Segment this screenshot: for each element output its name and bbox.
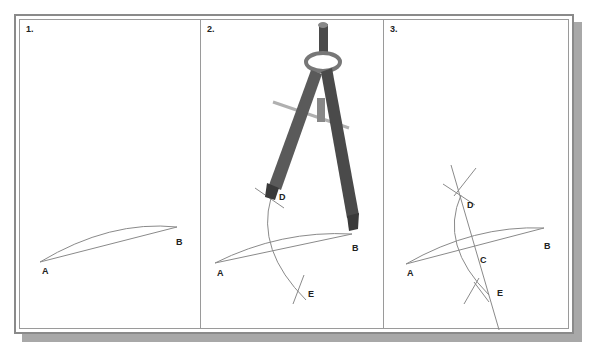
label-d: D bbox=[279, 192, 286, 202]
label-a: A bbox=[217, 268, 224, 278]
label-b: B bbox=[176, 237, 183, 247]
label-e: E bbox=[497, 288, 503, 298]
label-c: C bbox=[480, 255, 487, 265]
label-b: B bbox=[544, 241, 551, 251]
label-a: A bbox=[42, 266, 49, 276]
label-d: D bbox=[467, 200, 474, 210]
panel-step-3: 3. D C B A E bbox=[384, 20, 574, 328]
panel-step-1: 1. A B bbox=[20, 20, 200, 328]
diagram-inner-border: 1. A B 2. bbox=[19, 19, 569, 329]
diagram-frame: 1. A B 2. bbox=[14, 14, 574, 334]
panel-step-2: 2. D B bbox=[201, 20, 383, 328]
label-b: B bbox=[352, 243, 359, 253]
label-a: A bbox=[407, 268, 414, 278]
arc-and-line-figure: A B bbox=[20, 20, 200, 330]
perpendicular-bisector-figure: D C B A E bbox=[384, 20, 574, 330]
compass-construction-figure: D B A E bbox=[201, 20, 383, 330]
label-e: E bbox=[308, 289, 314, 299]
